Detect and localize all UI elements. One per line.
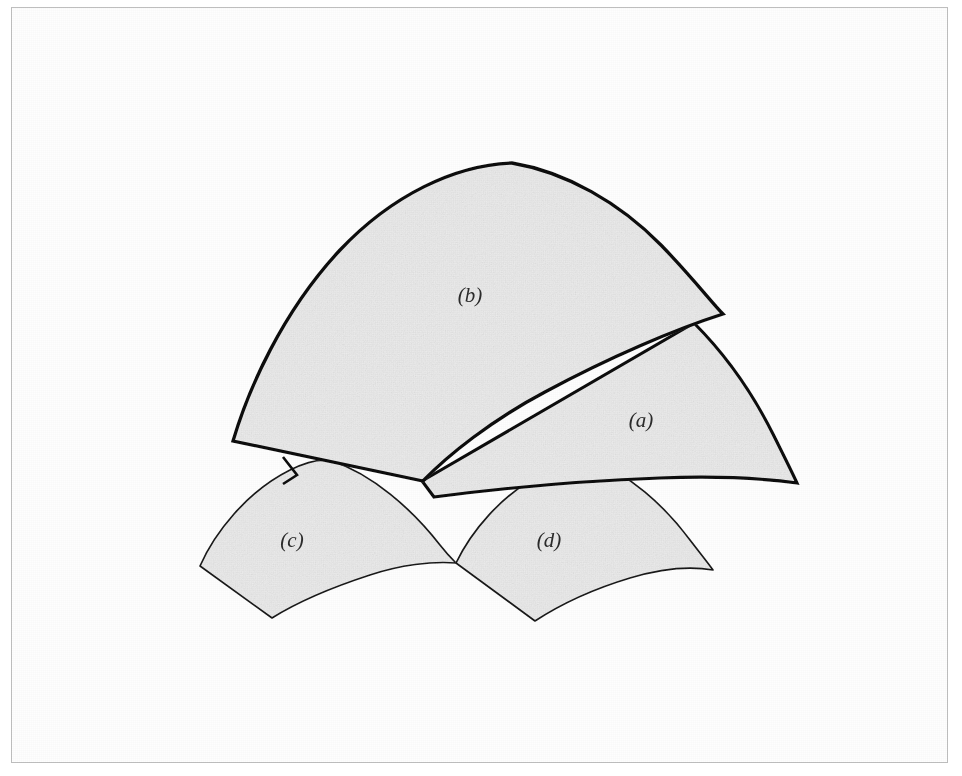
patch-a-label: (a): [629, 408, 654, 432]
patch-b-label: (b): [458, 283, 483, 307]
figure-page: (c) (d) (a) (b): [0, 0, 962, 776]
patch-d-label: (d): [537, 528, 562, 552]
patch-c-label: (c): [280, 528, 303, 552]
patch-c-group: (c): [200, 460, 456, 618]
patch-c-surface: [200, 460, 456, 618]
geometric-patch-diagram: (c) (d) (a) (b): [0, 0, 962, 776]
